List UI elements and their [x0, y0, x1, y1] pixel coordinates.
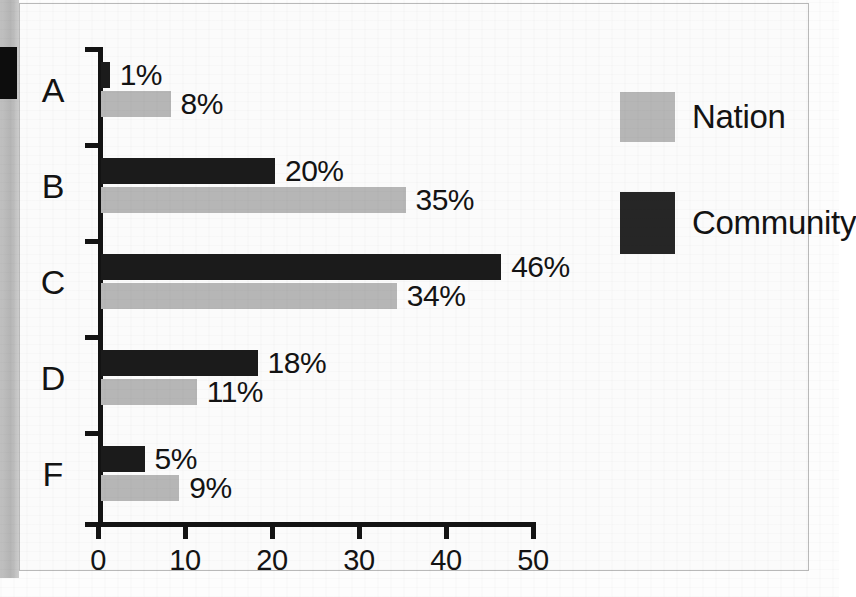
bar-nation-D [101, 379, 197, 405]
x-tick-label-50: 50 [503, 543, 563, 577]
bar-community-D [101, 350, 258, 376]
value-label-community-A: 1% [120, 59, 162, 91]
bar-nation-A [101, 91, 171, 117]
bar-nation-C [101, 283, 397, 309]
scan-edge-mark [0, 47, 17, 99]
legend-label-community: Community [692, 205, 856, 241]
y-tick-2 [85, 239, 103, 244]
x-axis-line [98, 522, 535, 527]
value-label-nation-C: 34% [407, 280, 466, 312]
scan-gutter-strip [0, 0, 19, 578]
x-tick-30 [357, 522, 362, 539]
value-label-nation-F: 9% [189, 472, 231, 504]
x-tick-50 [531, 522, 536, 539]
x-tick-label-30: 30 [329, 543, 389, 577]
category-label-A: A [30, 72, 76, 108]
value-label-nation-A: 8% [181, 88, 223, 120]
y-tick-4 [85, 431, 103, 436]
value-label-community-C: 46% [511, 251, 570, 283]
bar-community-F [101, 446, 145, 472]
bar-nation-B [101, 187, 406, 213]
legend-item-community[interactable]: Community [620, 192, 856, 254]
value-label-nation-D: 11% [207, 376, 263, 408]
category-label-F: F [30, 456, 76, 492]
legend-swatch-nation [620, 92, 675, 142]
legend-swatch-community [620, 192, 675, 254]
legend-item-nation[interactable]: Nation [620, 92, 786, 142]
bar-community-A [101, 62, 110, 88]
x-tick-20 [270, 522, 275, 539]
value-label-community-D: 18% [268, 347, 327, 379]
value-label-community-F: 5% [155, 443, 197, 475]
category-label-B: B [30, 168, 76, 204]
x-tick-label-0: 0 [68, 543, 128, 577]
figure-frame: 01020304050 ABCDF 1%8%20%35%46%34%18%11%… [19, 3, 809, 571]
x-tick-label-40: 40 [416, 543, 476, 577]
bar-community-C [101, 254, 501, 280]
x-tick-10 [183, 522, 188, 539]
value-label-community-B: 20% [285, 155, 344, 187]
category-label-D: D [30, 360, 76, 396]
y-tick-1 [85, 143, 103, 148]
value-label-nation-B: 35% [416, 184, 475, 216]
x-tick-label-10: 10 [155, 543, 215, 577]
bar-chart-plot-area: 01020304050 ABCDF 1%8%20%35%46%34%18%11%… [98, 47, 534, 527]
x-tick-40 [444, 522, 449, 539]
x-tick-label-20: 20 [242, 543, 302, 577]
legend-label-nation: Nation [692, 99, 786, 135]
bar-nation-F [101, 475, 179, 501]
y-tick-3 [85, 335, 103, 340]
bar-community-B [101, 158, 275, 184]
y-tick-0 [85, 47, 103, 52]
category-label-C: C [30, 264, 76, 300]
x-tick-0 [96, 522, 101, 539]
